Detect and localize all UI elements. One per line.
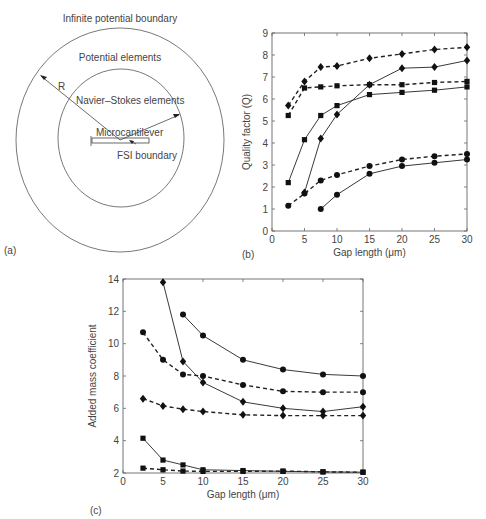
- diamond-marker-icon: [180, 405, 186, 413]
- circle-marker-icon: [318, 206, 324, 212]
- series-circle-solid: [318, 157, 470, 213]
- diamond-marker-icon: [360, 412, 366, 420]
- diamond-marker-icon: [431, 63, 437, 71]
- series-diamond-solid: [301, 57, 470, 197]
- circle-marker-icon: [360, 373, 366, 379]
- y-axis-label: Added mass coefficient: [87, 324, 98, 427]
- y-tick-label: 12: [108, 306, 120, 317]
- square-marker-icon: [286, 113, 291, 118]
- circle-marker-icon: [180, 371, 186, 377]
- diamond-marker-icon: [399, 64, 405, 72]
- square-marker-icon: [334, 83, 339, 88]
- square-marker-icon: [399, 90, 404, 95]
- diamond-marker-icon: [431, 46, 437, 54]
- x-tick-label: 15: [237, 476, 249, 487]
- diamond-marker-icon: [320, 412, 326, 420]
- diamond-marker-icon: [464, 43, 470, 51]
- x-tick-label: 25: [429, 234, 441, 245]
- y-tick-label: 6: [262, 94, 268, 105]
- square-marker-icon: [399, 82, 404, 87]
- series-diamond-solid: [160, 278, 366, 415]
- y-tick-label: 4: [262, 138, 268, 149]
- series-square-dashed: [286, 79, 470, 118]
- circle-marker-icon: [432, 153, 438, 159]
- circle-marker-icon: [367, 171, 373, 177]
- square-marker-icon: [432, 88, 437, 93]
- diamond-marker-icon: [399, 50, 405, 58]
- diamond-marker-icon: [280, 404, 286, 412]
- square-marker-icon: [320, 469, 325, 474]
- square-marker-icon: [367, 82, 372, 87]
- square-marker-icon: [464, 84, 469, 89]
- series-circle-solid: [180, 312, 366, 379]
- quality-factor-chart: 0510152025300123456789Gap length (μm)Qua…: [241, 28, 473, 259]
- diamond-marker-icon: [280, 412, 286, 420]
- diamond-marker-icon: [360, 403, 366, 411]
- square-marker-icon: [240, 469, 245, 474]
- square-marker-icon: [180, 462, 185, 467]
- series-square-solid: [140, 436, 365, 475]
- square-marker-icon: [302, 85, 307, 90]
- square-marker-icon: [464, 79, 469, 84]
- x-tick-label: 0: [269, 234, 275, 245]
- square-marker-icon: [302, 137, 307, 142]
- diamond-marker-icon: [301, 77, 307, 85]
- circle-marker-icon: [464, 151, 470, 157]
- diamond-marker-icon: [366, 54, 372, 62]
- circle-marker-icon: [432, 160, 438, 166]
- x-tick-label: 30: [357, 476, 369, 487]
- x-tick-label: 10: [331, 234, 343, 245]
- plot-frame: [123, 279, 363, 473]
- x-axis-label: Gap length (μm): [207, 489, 279, 500]
- y-tick-label: 14: [108, 274, 120, 285]
- x-tick-label: 30: [461, 234, 473, 245]
- square-marker-icon: [432, 80, 437, 85]
- diamond-marker-icon: [160, 402, 166, 410]
- square-marker-icon: [318, 113, 323, 118]
- circle-marker-icon: [200, 333, 206, 339]
- diamond-marker-icon: [240, 411, 246, 419]
- x-tick-label: 5: [160, 476, 166, 487]
- y-axis-label: Quality factor (Q): [241, 94, 252, 170]
- y-tick-label: 4: [113, 435, 119, 446]
- x-tick-label: 20: [277, 476, 289, 487]
- panel-b-label: (b): [242, 249, 254, 260]
- diamond-marker-icon: [464, 57, 470, 65]
- y-tick-label: 10: [108, 338, 120, 349]
- y-tick-label: 3: [262, 160, 268, 171]
- circle-marker-icon: [360, 389, 366, 395]
- circle-marker-icon: [200, 373, 206, 379]
- square-marker-icon: [280, 468, 285, 473]
- x-tick-label: 0: [120, 476, 126, 487]
- x-tick-label: 15: [364, 234, 376, 245]
- y-tick-label: 6: [113, 403, 119, 414]
- circle-marker-icon: [240, 357, 246, 363]
- series-square-solid: [286, 84, 470, 185]
- circle-marker-icon: [180, 312, 186, 318]
- square-marker-icon: [367, 92, 372, 97]
- square-marker-icon: [140, 436, 145, 441]
- circle-marker-icon: [280, 388, 286, 394]
- square-marker-icon: [200, 469, 205, 474]
- circle-marker-icon: [367, 163, 373, 169]
- y-tick-label: 7: [262, 72, 268, 83]
- potential-elements-label: Potential elements: [79, 52, 161, 63]
- microcantilever-beam: [92, 138, 149, 143]
- square-marker-icon: [160, 457, 165, 462]
- x-tick-label: 20: [396, 234, 408, 245]
- y-tick-label: 9: [262, 28, 268, 39]
- circle-marker-icon: [399, 163, 405, 169]
- x-tick-label: 10: [197, 476, 209, 487]
- diamond-marker-icon: [140, 395, 146, 403]
- panel-a-diagram: Infinite potential boundary Potential el…: [4, 13, 224, 256]
- circle-marker-icon: [320, 371, 326, 377]
- plot-frame: [272, 33, 467, 231]
- circle-marker-icon: [334, 192, 340, 198]
- square-marker-icon: [180, 468, 185, 473]
- square-marker-icon: [334, 103, 339, 108]
- diamond-marker-icon: [318, 63, 324, 71]
- circle-marker-icon: [464, 157, 470, 163]
- diamond-marker-icon: [240, 398, 246, 406]
- circle-marker-icon: [399, 157, 405, 163]
- y-tick-label: 8: [262, 50, 268, 61]
